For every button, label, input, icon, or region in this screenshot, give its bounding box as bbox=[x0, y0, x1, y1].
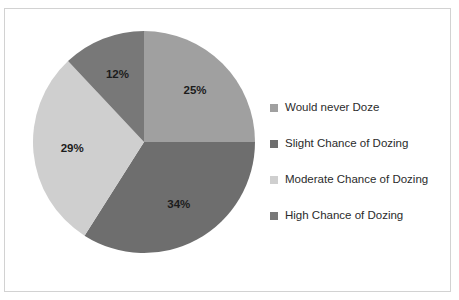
legend-swatch-icon bbox=[270, 104, 278, 112]
legend-item-label: Slight Chance of Dozing bbox=[285, 138, 408, 150]
legend-item[interactable]: Slight Chance of Dozing bbox=[270, 129, 450, 159]
scan-artifact: · · · bbox=[0, 0, 459, 5]
pie-chart: 25%34%29%12% bbox=[32, 30, 256, 254]
legend-swatch-icon bbox=[270, 176, 278, 184]
scan-artifact-text: · · · bbox=[0, 0, 27, 3]
legend-item-label: Moderate Chance of Dozing bbox=[285, 174, 428, 186]
legend-item[interactable]: Would never Doze bbox=[270, 93, 450, 123]
legend-swatch-icon bbox=[270, 212, 278, 220]
legend: Would never DozeSlight Chance of DozingM… bbox=[270, 93, 450, 237]
pie-slice-label: 12% bbox=[106, 68, 129, 80]
legend-item-label: High Chance of Dozing bbox=[285, 210, 403, 222]
chart-frame: 25%34%29%12% Would never DozeSlight Chan… bbox=[4, 8, 451, 292]
pie-slice-label: 29% bbox=[61, 142, 84, 154]
legend-swatch-icon bbox=[270, 140, 278, 148]
pie-slice-label: 34% bbox=[167, 198, 190, 210]
pie-svg: 25%34%29%12% bbox=[32, 30, 256, 254]
legend-item[interactable]: High Chance of Dozing bbox=[270, 201, 450, 231]
legend-item-label: Would never Doze bbox=[285, 102, 379, 114]
pie-slice-label: 25% bbox=[183, 84, 206, 96]
legend-item[interactable]: Moderate Chance of Dozing bbox=[270, 165, 450, 195]
plot-area: 25%34%29%12% Would never DozeSlight Chan… bbox=[5, 9, 452, 293]
